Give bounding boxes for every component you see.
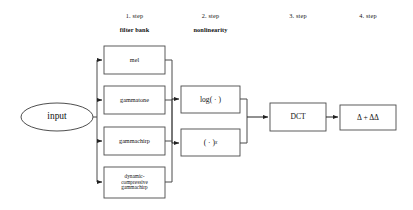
step-1-number: 1. step bbox=[104, 12, 165, 19]
delta-box bbox=[340, 105, 396, 130]
nonlinearity-box-log bbox=[181, 86, 240, 113]
step-header-2: 2. step nonlinearity bbox=[181, 12, 240, 33]
filter-box-dcgc bbox=[104, 167, 165, 198]
nonlinearity-box-power bbox=[181, 129, 240, 156]
step-1-name: filter bank bbox=[104, 26, 165, 33]
step-2-number: 2. step bbox=[181, 12, 240, 19]
filter-box-mel bbox=[104, 46, 165, 74]
diagram-canvas: 1. step filter bank 2. step nonlinearity… bbox=[0, 0, 413, 210]
step-header-3: 3. step bbox=[270, 12, 326, 19]
step-header-4: 4. step bbox=[340, 12, 396, 19]
input-ellipse bbox=[21, 103, 93, 131]
filter-box-gammachirp bbox=[104, 127, 165, 155]
dct-box bbox=[270, 103, 326, 131]
step-4-number: 4. step bbox=[340, 12, 396, 19]
filter-box-gammatone bbox=[104, 86, 165, 114]
step-header-1: 1. step filter bank bbox=[104, 12, 165, 33]
step-3-number: 3. step bbox=[270, 12, 326, 19]
step-2-name: nonlinearity bbox=[181, 26, 240, 33]
